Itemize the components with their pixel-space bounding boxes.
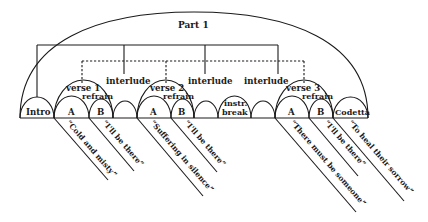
- interlude-label-2: interlude: [188, 76, 233, 86]
- song-form-diagram: Part 1 interlude interlude interlude ver…: [0, 0, 428, 222]
- section-verse2-a: A: [149, 107, 157, 117]
- interlude-label-3: interlude: [244, 76, 289, 86]
- section-instr-line2: break: [222, 107, 248, 117]
- section-verse2-b: B: [178, 107, 185, 117]
- section-verse1-a: A: [67, 107, 75, 117]
- part-1-label: Part 1: [178, 20, 209, 30]
- section-verse1-b: B: [97, 107, 104, 117]
- section-codetta: Codetta: [335, 107, 370, 117]
- section-verse3-b: B: [317, 107, 324, 117]
- section-verse3-a: A: [287, 107, 295, 117]
- lyric-3: “Suffering in silence”: [148, 118, 215, 193]
- interlude-label-1: interlude: [106, 76, 151, 86]
- section-intro: Intro: [26, 107, 51, 117]
